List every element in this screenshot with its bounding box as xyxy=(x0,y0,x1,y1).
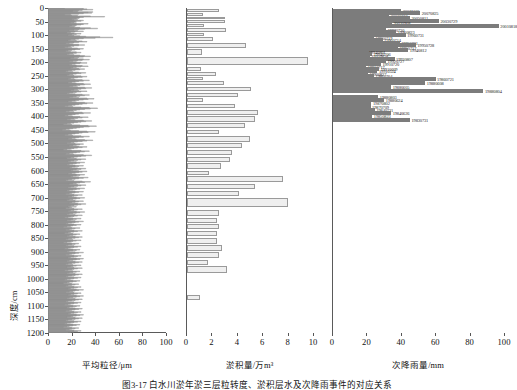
y-tick-750: 750 xyxy=(0,206,44,216)
siltation-bar xyxy=(187,245,222,250)
x-tickmark xyxy=(470,333,471,336)
x-tick-0: 0 xyxy=(330,337,334,347)
y-tick-1200: 1200 xyxy=(0,328,44,338)
rainfall-event-date-label: 19960731 xyxy=(407,33,424,38)
x-tickmark xyxy=(313,333,314,336)
y-tick-1100: 1100 xyxy=(0,301,44,311)
x-tick-2: 2 xyxy=(209,337,213,347)
siltation-bar xyxy=(187,57,308,65)
siltation-bar xyxy=(187,24,204,27)
siltation-bar xyxy=(187,157,230,162)
rainfall-event-date-label: 20030729 xyxy=(441,19,458,24)
y-tick-600: 600 xyxy=(0,166,44,176)
x-tick-100: 100 xyxy=(160,337,173,347)
siltation-bar xyxy=(187,150,232,155)
siltation-bar xyxy=(187,104,235,108)
siltation-bar xyxy=(187,163,221,168)
panel-rainfall: 2007100520070825200608122005081120030729… xyxy=(332,8,504,333)
x-tickmark xyxy=(504,333,505,336)
y-tick-650: 650 xyxy=(0,179,44,189)
x-tickmark xyxy=(142,333,143,336)
siltation-bar xyxy=(187,87,251,91)
y-tick-100: 100 xyxy=(0,30,44,40)
siltation-bar xyxy=(187,49,202,55)
siltation-bar xyxy=(187,295,200,300)
siltation-bar xyxy=(187,17,225,20)
y-tick-700: 700 xyxy=(0,193,44,203)
y-tick-50: 50 xyxy=(0,17,44,27)
panel2-x-axis-title: 淤积量/万m³ xyxy=(186,358,313,370)
y-tick-950: 950 xyxy=(0,260,44,270)
siltation-bar xyxy=(187,171,209,175)
x-tickmark xyxy=(95,333,96,336)
siltation-bar xyxy=(187,116,255,121)
siltation-bar xyxy=(187,72,216,75)
siltation-bar xyxy=(187,136,250,142)
rainfall-event-date-label: 19940812 xyxy=(410,48,427,53)
x-tickmark xyxy=(186,333,187,336)
siltation-bar xyxy=(187,33,204,36)
siltation-bar xyxy=(187,218,217,223)
x-tick-100: 100 xyxy=(498,337,511,347)
rainfall-bar-group: 2007100520070825200608122005081120030729… xyxy=(333,8,504,333)
y-tick-500: 500 xyxy=(0,138,44,148)
siltation-bar xyxy=(187,13,203,15)
x-tick-10: 10 xyxy=(309,337,318,347)
siltation-bar xyxy=(187,67,201,71)
y-tick-200: 200 xyxy=(0,57,44,67)
siltation-bar xyxy=(187,143,242,148)
x-tickmark xyxy=(211,333,212,336)
siltation-bar xyxy=(187,81,224,85)
panel-grain-size xyxy=(48,8,166,333)
y-tick-250: 250 xyxy=(0,71,44,81)
x-tick-20: 20 xyxy=(67,337,76,347)
x-tickmark xyxy=(435,333,436,336)
panel1-x-axis-title: 平均粒径/μm xyxy=(48,358,166,370)
x-tick-0: 0 xyxy=(184,337,188,347)
y-tick-400: 400 xyxy=(0,111,44,121)
x-tick-0: 0 xyxy=(46,337,50,347)
siltation-bar xyxy=(187,77,203,80)
x-tick-20: 20 xyxy=(362,337,371,347)
y-tick-800: 800 xyxy=(0,220,44,230)
y-tick-0: 0 xyxy=(0,3,44,13)
siltation-bar xyxy=(187,252,219,258)
siltation-bar-group xyxy=(187,8,313,333)
y-tick-150: 150 xyxy=(0,44,44,54)
x-tick-40: 40 xyxy=(91,337,100,347)
panel3-x-axis-title: 次降雨量/mm xyxy=(332,358,504,370)
siltation-bar xyxy=(187,130,219,134)
siltation-bar xyxy=(187,123,245,128)
rainfall-event-date-label: 19880804 xyxy=(485,89,502,94)
siltation-bar xyxy=(187,110,258,115)
rainfall-bar xyxy=(333,85,391,89)
y-tick-850: 850 xyxy=(0,233,44,243)
siltation-bar xyxy=(187,238,217,243)
rainfall-bar xyxy=(333,118,410,122)
y-tick-550: 550 xyxy=(0,152,44,162)
siltation-bar xyxy=(187,28,226,32)
x-tickmark xyxy=(366,333,367,336)
siltation-bar xyxy=(187,184,255,189)
siltation-bar xyxy=(187,93,238,97)
x-tickmark xyxy=(166,333,167,336)
y-tick-1150: 1150 xyxy=(0,314,44,324)
x-tickmark xyxy=(48,333,49,336)
x-tickmark xyxy=(401,333,402,336)
siltation-bar xyxy=(187,191,239,197)
x-tick-80: 80 xyxy=(138,337,147,347)
x-tick-8: 8 xyxy=(285,337,289,347)
rainfall-event-date-label: 20010818 xyxy=(500,24,517,29)
y-tick-900: 900 xyxy=(0,247,44,257)
y-tick-350: 350 xyxy=(0,98,44,108)
grain-size-step-line xyxy=(48,8,166,333)
figure-caption: 图3-17 白水川淤年淤三层粒转度、淤积层水及次降雨事件的对应关系 xyxy=(0,378,514,390)
rainfall-event-date-label: 19830731 xyxy=(411,118,428,123)
siltation-bar xyxy=(187,98,203,102)
x-tickmark xyxy=(332,333,333,336)
y-tick-1050: 1050 xyxy=(0,287,44,297)
x-tickmark xyxy=(237,333,238,336)
x-tick-4: 4 xyxy=(235,337,239,347)
x-tickmark xyxy=(288,333,289,336)
